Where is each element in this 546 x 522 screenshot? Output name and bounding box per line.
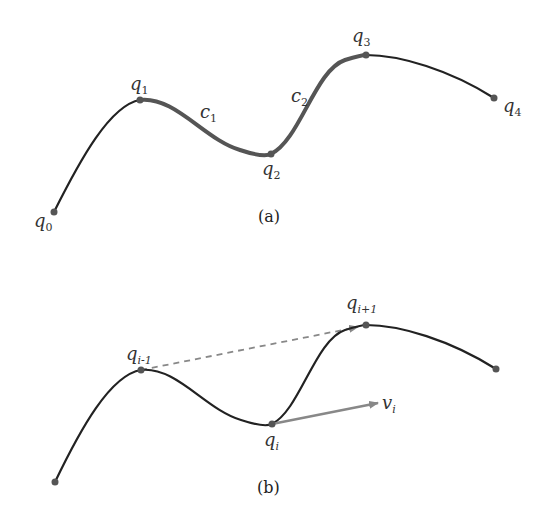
label-vi: vi (382, 392, 396, 416)
point-start (52, 479, 59, 486)
label-q2: q2 (262, 158, 281, 182)
label-qi: qi (264, 429, 279, 453)
vector-vi-arrow (272, 403, 378, 424)
point-qi (269, 421, 276, 428)
panel-b: qi-1 qi qi+1 vi (b) (52, 292, 500, 497)
point-q1 (137, 97, 144, 104)
point-q0 (51, 209, 58, 216)
dashed-chord (141, 327, 358, 370)
curve-b (55, 325, 496, 482)
caption-a: (a) (258, 207, 280, 226)
caption-b: (b) (257, 478, 280, 497)
label-q4: q4 (503, 95, 522, 119)
point-qi-1 (138, 367, 145, 374)
curve-diagram: q0 q1 q2 q3 q4 c1 c2 (a) qi-1 qi qi+1 vi… (0, 0, 546, 522)
panel-a: q0 q1 q2 q3 q4 c1 c2 (a) (34, 25, 522, 234)
label-qi+1: qi+1 (346, 292, 377, 316)
label-q3: q3 (352, 25, 371, 49)
curve-a (54, 55, 494, 212)
label-qi-1: qi-1 (126, 343, 152, 367)
label-q1: q1 (130, 73, 149, 97)
segment-c2 (271, 55, 366, 154)
label-c1: c1 (200, 101, 217, 125)
label-c2: c2 (291, 85, 308, 109)
point-end (493, 366, 500, 373)
label-q0: q0 (34, 210, 53, 234)
point-q3 (363, 52, 370, 59)
point-q2 (268, 151, 275, 158)
point-q4 (491, 95, 498, 102)
point-qi+1 (363, 322, 370, 329)
